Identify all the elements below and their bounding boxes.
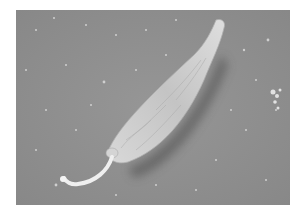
flagellum-tip: [60, 176, 66, 182]
micrograph: Scanning electron micrograph of a spindl…: [16, 10, 290, 205]
micrograph-svg: [16, 10, 290, 205]
